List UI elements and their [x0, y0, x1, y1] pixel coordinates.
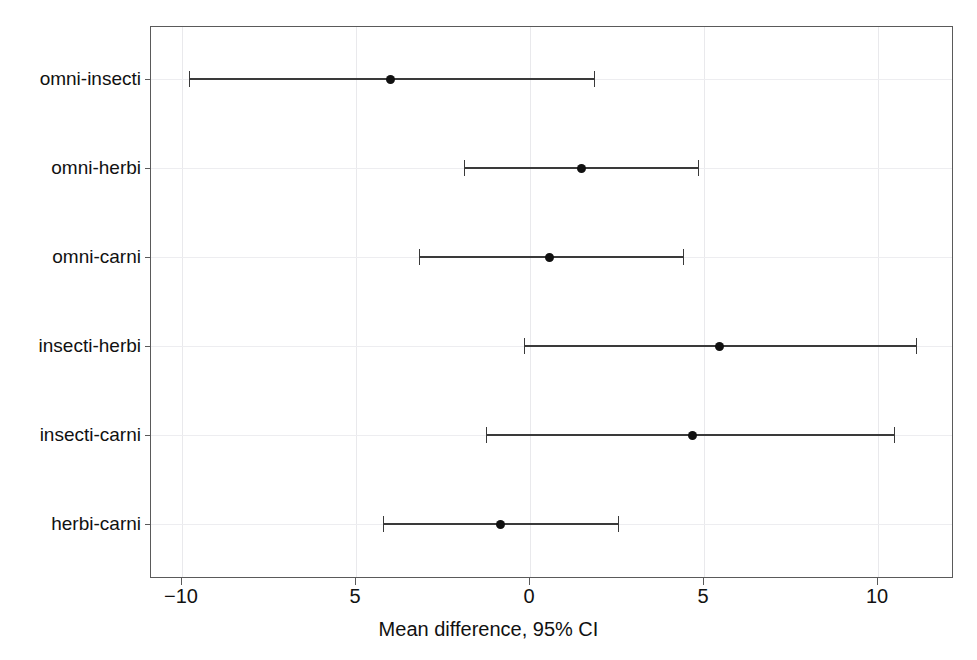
y-axis-tick [145, 435, 151, 436]
x-axis-tick [877, 578, 878, 585]
estimate-marker [496, 520, 505, 529]
ci-row [151, 66, 952, 92]
ci-cap-upper [916, 338, 917, 354]
ci-cap-upper [594, 71, 595, 87]
gridline-vertical [182, 27, 183, 577]
y-axis-tick [145, 79, 151, 80]
estimate-marker [688, 431, 697, 440]
x-axis-tick-label: −10 [164, 586, 198, 606]
ci-cap-lower [383, 516, 384, 532]
ci-cap-upper [698, 160, 699, 176]
y-axis-label-herbi-carni: herbi-carni [51, 514, 141, 533]
ci-cap-upper [894, 427, 895, 443]
ci-cap-upper [683, 249, 684, 265]
y-axis-labels: omni-insectiomni-herbiomni-carniinsecti-… [0, 0, 141, 660]
y-axis-label-insecti-carni: insecti-carni [40, 425, 141, 444]
ci-cap-lower [189, 71, 190, 87]
gridline-vertical [356, 27, 357, 577]
y-axis-label-omni-carni: omni-carni [52, 247, 141, 266]
x-axis-tick [181, 578, 182, 585]
y-axis-label-omni-herbi: omni-herbi [51, 158, 141, 177]
estimate-marker [386, 75, 395, 84]
x-axis-tick-label: 5 [698, 586, 709, 606]
gridline-vertical [530, 27, 531, 577]
y-axis-tick [145, 346, 151, 347]
estimate-marker [577, 164, 586, 173]
y-axis-label-omni-insecti: omni-insecti [40, 69, 141, 88]
ci-row [151, 333, 952, 359]
x-axis-tick [703, 578, 704, 585]
x-axis-tick-label: 10 [866, 586, 888, 606]
ci-row [151, 511, 952, 537]
ci-row [151, 155, 952, 181]
ci-cap-lower [486, 427, 487, 443]
ci-cap-lower [524, 338, 525, 354]
gridline-vertical [704, 27, 705, 577]
y-axis-label-insecti-herbi: insecti-herbi [39, 336, 141, 355]
ci-row [151, 244, 952, 270]
x-axis-ticks [150, 578, 953, 586]
ci-cap-lower [419, 249, 420, 265]
x-axis-tick-label: 0 [523, 586, 534, 606]
y-axis-tick [145, 257, 151, 258]
plot-area [150, 26, 953, 578]
ci-cap-upper [618, 516, 619, 532]
ci-row [151, 422, 952, 448]
x-axis-tick [529, 578, 530, 585]
gridline-vertical [878, 27, 879, 577]
y-axis-tick [145, 524, 151, 525]
ci-cap-lower [464, 160, 465, 176]
x-axis-tick [355, 578, 356, 585]
x-axis-title: Mean difference, 95% CI [0, 619, 977, 639]
estimate-marker [545, 253, 554, 262]
forest-plot-figure: omni-insectiomni-herbiomni-carniinsecti-… [0, 0, 977, 660]
x-axis-tick-label: 5 [349, 586, 360, 606]
y-axis-tick [145, 168, 151, 169]
estimate-marker [715, 342, 724, 351]
